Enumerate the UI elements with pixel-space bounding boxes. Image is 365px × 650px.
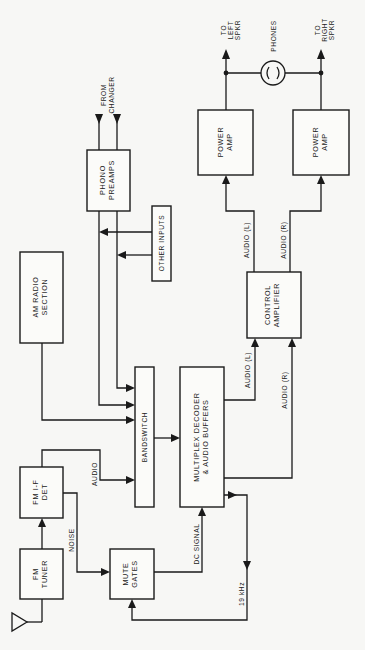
control-amp-label-2: AMPLIFIER	[272, 283, 281, 327]
audio-block-diagram: FM TUNER FM I-F DET AUDIO NOISE MUTE GAT…	[0, 0, 365, 650]
am-radio-label-1: AM RADIO	[31, 276, 40, 317]
multiplex-label-1: MULTIPLEX DECODER	[192, 392, 201, 481]
arrow-icon	[198, 507, 206, 516]
left-spkr-label-3: SPKR	[234, 20, 241, 40]
arrow-icon	[228, 491, 237, 499]
control-amp-label-1: CONTROL	[263, 285, 272, 325]
am-radio-block: AM RADIO SECTION	[20, 252, 63, 343]
other-inputs-block: OTHER INPUTS	[152, 206, 171, 281]
right-spkr-label-1: TO	[314, 25, 321, 35]
am-radio-label-2: SECTION	[40, 279, 49, 316]
ctrl-audio-r-label: AUDIO (R)	[280, 221, 288, 258]
power-amp-left-block: POWER AMP	[198, 110, 253, 175]
power-amp-right-block: POWER AMP	[293, 110, 349, 175]
fm-if-det-label-2: DET	[40, 484, 49, 500]
arrow-icon	[126, 401, 135, 409]
mpx-audio-l-label: AUDIO (L)	[244, 352, 252, 388]
right-speaker-terminal: TO RIGHT SPKR	[314, 18, 335, 42]
antenna-icon	[12, 599, 42, 631]
audio-fm-label: AUDIO	[91, 462, 98, 486]
noise-label: NOISE	[68, 528, 75, 552]
arrow-icon	[101, 568, 110, 576]
multiplex-decoder-block: MULTIPLEX DECODER & AUDIO BUFFERS	[180, 367, 224, 507]
arrow-icon	[317, 49, 325, 59]
arrow-icon	[222, 49, 230, 59]
arrow-icon	[126, 384, 135, 392]
from-label: FROM	[100, 84, 107, 106]
power-amp-right-label-2: AMP	[320, 133, 329, 151]
right-spkr-label-2: RIGHT	[321, 18, 328, 42]
bandswitch-label: BANDSWITCH	[141, 412, 148, 462]
control-amplifier-block: CONTROL AMPLIFIER	[247, 272, 301, 338]
mute-gates-block: MUTE GATES	[110, 549, 154, 599]
arrow-icon	[128, 599, 136, 608]
arrow-icon	[251, 338, 259, 347]
arrow-icon	[117, 251, 126, 259]
fm-tuner-label-2: TUNER	[40, 560, 49, 588]
arrow-icon	[126, 416, 135, 424]
phono-preamps-label-1: PHONO	[98, 165, 107, 195]
dc-signal-label: DC SIGNAL	[193, 524, 200, 565]
arrow-icon	[317, 175, 325, 184]
arrow-icon	[243, 561, 251, 570]
headphone-jack-icon	[261, 61, 285, 85]
bandswitch-block: BANDSWITCH	[135, 367, 154, 507]
arrow-icon	[288, 338, 296, 347]
phono-preamps-label-2: PREAMPS	[107, 160, 116, 200]
arrow-icon	[99, 228, 108, 236]
fm-tuner-block: FM TUNER	[20, 549, 63, 599]
multiplex-label-2: & AUDIO BUFFERS	[201, 399, 210, 474]
fm-tuner-label-1: FM	[31, 568, 40, 580]
other-inputs-label: OTHER INPUTS	[158, 215, 165, 271]
changer-label: CHANGER	[108, 76, 115, 113]
mute-gates-label-1: MUTE	[121, 562, 130, 585]
power-amp-left-label-2: AMP	[225, 133, 234, 151]
left-spkr-label-1: TO	[220, 25, 227, 35]
phones-label: PHONES	[270, 20, 277, 51]
mute-gates-label-2: GATES	[130, 560, 139, 587]
fm-if-det-label-1: FM I-F	[31, 479, 40, 504]
left-speaker-terminal: TO LEFT SPKR	[220, 20, 241, 40]
19khz-label: 19 kHz	[238, 582, 245, 606]
arrow-icon	[171, 434, 180, 442]
fm-if-det-block: FM I-F DET	[20, 467, 63, 518]
phono-preamps-block: PHONO PREAMPS	[87, 150, 130, 211]
power-amp-right-label-1: POWER	[311, 127, 320, 158]
right-spkr-label-3: SPKR	[328, 20, 335, 40]
arrow-icon	[38, 518, 46, 527]
mpx-audio-r-label: AUDIO (R)	[281, 371, 289, 408]
arrow-icon	[222, 175, 230, 184]
left-spkr-label-2: LEFT	[227, 21, 234, 40]
from-changer-terminal: FROM CHANGER	[95, 76, 121, 150]
ctrl-audio-l-label: AUDIO (L)	[243, 222, 251, 258]
power-amp-left-label-1: POWER	[216, 127, 225, 158]
arrow-icon	[126, 476, 135, 484]
